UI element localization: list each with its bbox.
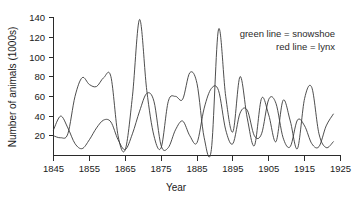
y-tick-label-100: 100 bbox=[29, 52, 45, 63]
y-tick-label-60: 60 bbox=[34, 91, 45, 102]
y-tick-label-80: 80 bbox=[34, 71, 45, 82]
legend-snowshoe-label: green line = snowshoe bbox=[240, 28, 335, 39]
x-tick-label-1885: 1885 bbox=[186, 163, 207, 174]
x-tick-label-1875: 1875 bbox=[151, 163, 172, 174]
x-tick-label-1925: 1925 bbox=[330, 163, 351, 174]
x-tick-label-1915: 1915 bbox=[294, 163, 315, 174]
x-tick-label-1865: 1865 bbox=[115, 163, 136, 174]
line-chart-svg: 140 120 100 80 60 40 20 1845 1855 1865 1… bbox=[0, 0, 352, 200]
y-axis-title: Number of animals (1000s) bbox=[7, 27, 18, 148]
y-tick-label-140: 140 bbox=[29, 12, 45, 23]
y-tick-label-40: 40 bbox=[34, 111, 45, 122]
y-tick-label-20: 20 bbox=[34, 130, 45, 141]
x-tick-label-1905: 1905 bbox=[258, 163, 279, 174]
x-tick-label-1855: 1855 bbox=[79, 163, 100, 174]
chart-figure: 140 120 100 80 60 40 20 1845 1855 1865 1… bbox=[0, 0, 352, 200]
y-tick-label-120: 120 bbox=[29, 32, 45, 43]
legend-lynx-label: red line = lynx bbox=[276, 41, 335, 52]
x-tick-label-1895: 1895 bbox=[222, 163, 243, 174]
x-axis-title: Year bbox=[166, 182, 187, 193]
x-tick-label-1845: 1845 bbox=[43, 163, 64, 174]
